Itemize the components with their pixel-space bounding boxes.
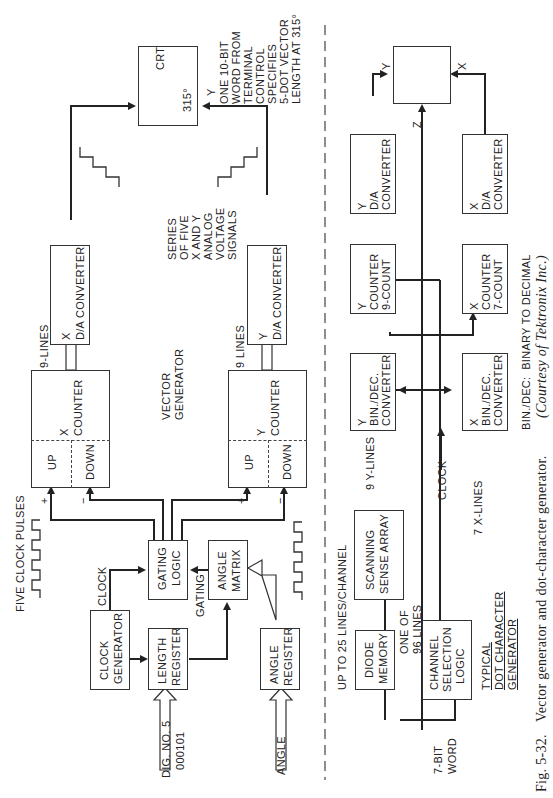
bindec-abbrev-note: BIN./DEC: BINARY TO DECIMAL <box>520 254 533 430</box>
dot-7-x-lines: 7 X-LINES <box>472 480 485 535</box>
length-register-l2: REGISTER <box>170 627 183 686</box>
dot-gen-title-2: DOT CHARACTER <box>493 592 506 690</box>
channel-logic-l1: CHANNEL <box>428 635 441 690</box>
y-da-label: D/A CONVERTER <box>271 246 284 340</box>
dot-y-counter-l2: 9-COUNT <box>380 259 393 310</box>
lines-per-channel-label: UP TO 25 LINES/CHANNEL <box>336 545 349 690</box>
dot-9-y-lines: 9 Y-LINES <box>364 437 377 490</box>
channel-logic-l3: LOGIC <box>454 648 467 684</box>
angle-matrix-l1: ANGLE <box>216 551 229 590</box>
crt-label: CRT <box>154 47 167 70</box>
dot-gen-title-3: GENERATOR <box>506 619 519 690</box>
vector-generator-title-1: VECTOR <box>160 373 173 420</box>
figure-credit: (Courtesy of Tektronix Inc.) <box>535 255 548 418</box>
x-counter-down: DOWN <box>84 444 97 480</box>
x-counter-axis: X <box>58 428 71 436</box>
x-da-label: D/A CONVERTER <box>74 246 87 340</box>
word-input-2: WORD <box>446 738 459 774</box>
dot-x-bindec-l2: CONVERTER <box>492 354 505 426</box>
dig-no-label: DIG. NO. 5 <box>160 721 173 778</box>
angle-input-label: ANGLE <box>275 736 288 775</box>
dot-gen-title-1: TYPICAL <box>480 642 493 690</box>
gating-signal-label: GATING <box>194 574 207 617</box>
dot-crt-x: X <box>456 62 469 70</box>
x-counter-up: UP <box>46 454 59 470</box>
scanning-l2: SENSE ARRAY <box>378 514 391 594</box>
y-da-axis: Y <box>257 332 270 340</box>
dot-x-counter-l2: 7-COUNT <box>492 259 505 310</box>
dot-x-da-l2: CONVERTER <box>492 138 505 210</box>
x-counter-label: COUNTER <box>72 380 85 437</box>
dot-crt-y: Y <box>380 62 393 70</box>
dig-no-value: 000101 <box>174 731 187 770</box>
x-9-lines-label: 9-LINES <box>38 324 51 368</box>
dot-clock-label: CLOCK <box>436 461 449 500</box>
gating-logic-l2: LOGIC <box>170 550 183 586</box>
y-9-lines-label: 9 LINES <box>234 325 247 368</box>
crt-display-dot <box>393 46 451 104</box>
gating-logic-l1: GATING <box>156 547 169 590</box>
channel-logic-l2: SELECTION <box>441 627 454 692</box>
dot-y-bindec-l2: CONVERTER <box>380 354 393 426</box>
clock-generator-l2: GENERATOR <box>112 613 125 684</box>
crt-angle-label: 315° <box>181 88 194 112</box>
dot-crt-z: Z <box>411 121 424 128</box>
dot-y-da-l2: CONVERTER <box>380 138 393 210</box>
crt-display-vector <box>138 46 198 126</box>
clock-generator-l1: CLOCK <box>98 641 111 680</box>
y-counter-label: COUNTER <box>269 380 282 437</box>
angle-matrix-l2: MATRIX <box>230 549 243 592</box>
y-counter-axis: Y <box>255 428 268 436</box>
angle-register-l2: REGISTER <box>282 627 295 686</box>
plus-x: + <box>38 497 51 504</box>
plus-y: + <box>235 497 248 504</box>
angle-register-l1: ANGLE <box>268 645 281 684</box>
one-of-label: ONE OF <box>398 610 411 654</box>
figure-number: Fig. 5-32. <box>535 734 548 792</box>
clock-signal-label: CLOCK <box>96 567 109 606</box>
diode-memory-l2: MEMORY <box>377 633 390 684</box>
vector-generator-title-2: GENERATOR <box>173 349 186 420</box>
crt-note-7: LENGTH AT 315° <box>290 14 303 104</box>
length-register-l1: LENGTH <box>156 638 169 684</box>
scanning-l1: SCANNING <box>364 530 377 590</box>
diode-memory-l1: DIODE <box>363 642 376 678</box>
x-da-axis: X <box>60 332 73 340</box>
word-input-1: 7-BIT <box>432 746 445 774</box>
signals-note-6: SIGNALS <box>226 210 239 260</box>
five-clock-pulses-label: FIVE CLOCK PULSES <box>14 495 27 612</box>
minus-x: − <box>77 497 90 504</box>
y-counter-up: UP <box>243 454 256 470</box>
figure-caption: Vector generator and dot-character gener… <box>535 455 548 722</box>
minus-y: − <box>274 497 287 504</box>
crt-y-label: Y <box>205 88 218 96</box>
y-counter-down: DOWN <box>281 444 294 480</box>
